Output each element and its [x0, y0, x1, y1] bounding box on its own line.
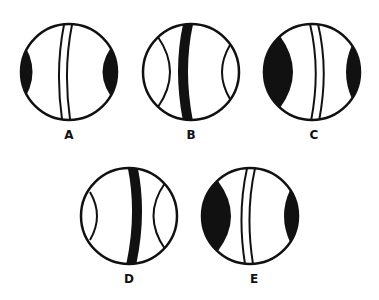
right-shaded-lens — [346, 45, 370, 99]
option-c-figure[interactable] — [255, 20, 370, 126]
option-d-figure[interactable] — [81, 164, 177, 270]
band-line-left — [59, 20, 65, 126]
option-c-label: C — [310, 128, 319, 142]
band-line-right — [67, 20, 73, 126]
left-outline-lens — [90, 192, 97, 240]
option-e-label: E — [250, 272, 258, 286]
option-a-label: A — [64, 128, 73, 142]
option-b-figure[interactable] — [143, 20, 239, 126]
outer-circle — [143, 24, 239, 120]
option-a-figure[interactable] — [10, 20, 130, 126]
option-d-label: D — [124, 272, 134, 286]
band-line-right — [317, 20, 324, 126]
option-b-label: B — [186, 128, 195, 142]
solid-band — [178, 20, 194, 126]
left-outline-lens — [158, 37, 170, 107]
band-line-left — [241, 164, 248, 270]
right-outline-lens — [154, 183, 166, 249]
right-outline-lens — [222, 45, 230, 99]
figure-canvas — [0, 0, 379, 300]
option-e-figure[interactable] — [195, 164, 305, 270]
left-shaded-lens — [195, 181, 231, 251]
solid-band — [125, 164, 142, 270]
band-line-left — [309, 20, 316, 126]
band-line-right — [249, 164, 256, 270]
left-shaded-lens — [255, 36, 293, 108]
